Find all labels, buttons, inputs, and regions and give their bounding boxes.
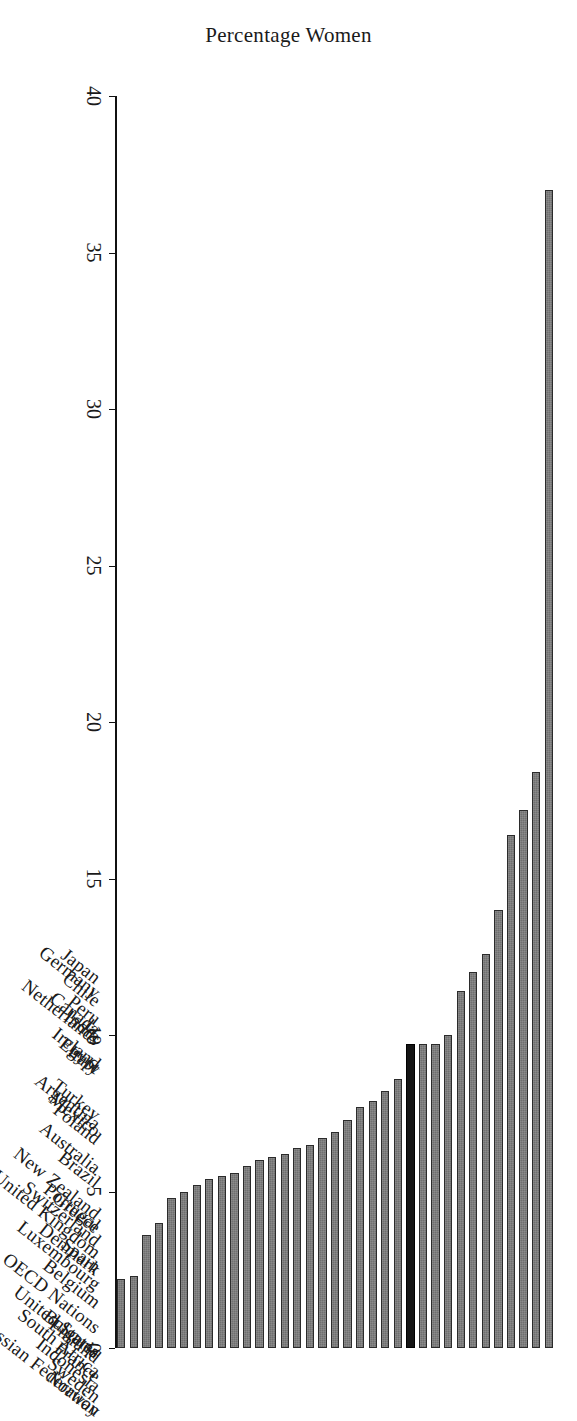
bar	[155, 1223, 163, 1348]
bar-item	[444, 1035, 452, 1348]
bar-item	[193, 1185, 201, 1348]
bar	[394, 1079, 402, 1348]
bar	[356, 1107, 364, 1348]
tick-mark	[109, 1348, 115, 1349]
bar-item	[381, 1091, 389, 1348]
bar	[343, 1120, 351, 1348]
bar	[444, 1035, 452, 1348]
bar	[318, 1138, 326, 1348]
bar-item	[406, 1044, 414, 1348]
bar	[205, 1179, 213, 1348]
bar	[406, 1044, 414, 1348]
bar-item	[205, 1179, 213, 1348]
bar-item	[494, 910, 502, 1348]
bar	[494, 910, 502, 1348]
bar	[268, 1157, 276, 1348]
bar	[293, 1148, 301, 1348]
bar	[431, 1044, 439, 1348]
y-axis-title: Percentage Women	[0, 12, 577, 58]
bar-item	[255, 1160, 263, 1348]
bar	[381, 1091, 389, 1348]
bar	[306, 1145, 314, 1348]
bar	[281, 1154, 289, 1348]
bar-series	[115, 96, 555, 1348]
bar	[142, 1235, 150, 1348]
bar-item	[167, 1198, 175, 1348]
bar-item	[369, 1101, 377, 1348]
bar-item	[356, 1107, 364, 1348]
bar	[230, 1173, 238, 1348]
bar	[331, 1132, 339, 1348]
bar-item	[532, 772, 540, 1348]
bar-item	[306, 1145, 314, 1348]
bar-item	[469, 972, 477, 1348]
bar	[180, 1192, 188, 1349]
bar-item	[457, 991, 465, 1348]
bar-item	[545, 190, 553, 1348]
bar-item	[419, 1044, 427, 1348]
bar	[255, 1160, 263, 1348]
bar	[369, 1101, 377, 1348]
bar-item	[180, 1192, 188, 1349]
bar	[130, 1276, 138, 1348]
plot-area: 0510152025303540	[115, 96, 555, 1348]
bar	[507, 835, 515, 1348]
bar	[167, 1198, 175, 1348]
bar-item	[155, 1223, 163, 1348]
bar-item	[519, 810, 527, 1348]
bar	[117, 1279, 125, 1348]
bar	[243, 1166, 251, 1348]
bar-item	[268, 1157, 276, 1348]
category-axis-labels: NorwaySwedenFranceIndonesiaFinlandBulgar…	[2, 96, 107, 1348]
bar	[218, 1176, 226, 1348]
bar	[482, 954, 490, 1348]
bar-item	[243, 1166, 251, 1348]
bar-item	[507, 835, 515, 1348]
bar-item	[318, 1138, 326, 1348]
bar-item	[394, 1079, 402, 1348]
bar-item	[281, 1154, 289, 1348]
bar	[532, 772, 540, 1348]
bar-item	[293, 1148, 301, 1348]
bar	[419, 1044, 427, 1348]
bar	[519, 810, 527, 1348]
bar-item	[230, 1173, 238, 1348]
bar-item	[117, 1279, 125, 1348]
bar	[193, 1185, 201, 1348]
bar-item	[130, 1276, 138, 1348]
bar	[457, 991, 465, 1348]
bar-item	[331, 1132, 339, 1348]
bar-item	[218, 1176, 226, 1348]
bar-item	[142, 1235, 150, 1348]
bar	[469, 972, 477, 1348]
bar-item	[343, 1120, 351, 1348]
bar-item	[482, 954, 490, 1348]
bar-item	[431, 1044, 439, 1348]
bar	[545, 190, 553, 1348]
